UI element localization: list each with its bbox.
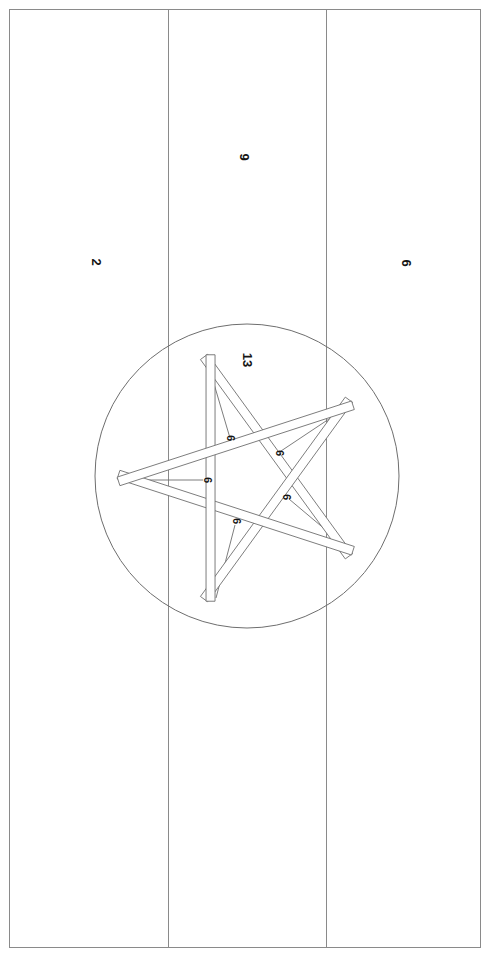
detail-circle-label: 13 bbox=[241, 353, 254, 367]
drawing-sheet: 2 9 6 13 6 6 6 6 6 bbox=[0, 0, 488, 956]
part-label: 6 bbox=[202, 477, 213, 483]
part-label: 6 bbox=[281, 494, 292, 500]
part-label: 6 bbox=[274, 450, 285, 456]
part-label: 6 bbox=[231, 518, 242, 524]
part-label: 6 bbox=[225, 435, 236, 441]
panel-label-center: 9 bbox=[238, 153, 251, 160]
sheet-border bbox=[10, 10, 481, 948]
technical-drawing-canvas bbox=[0, 0, 488, 956]
panel-label-left: 2 bbox=[90, 258, 103, 265]
panel-label-right: 6 bbox=[400, 259, 413, 266]
